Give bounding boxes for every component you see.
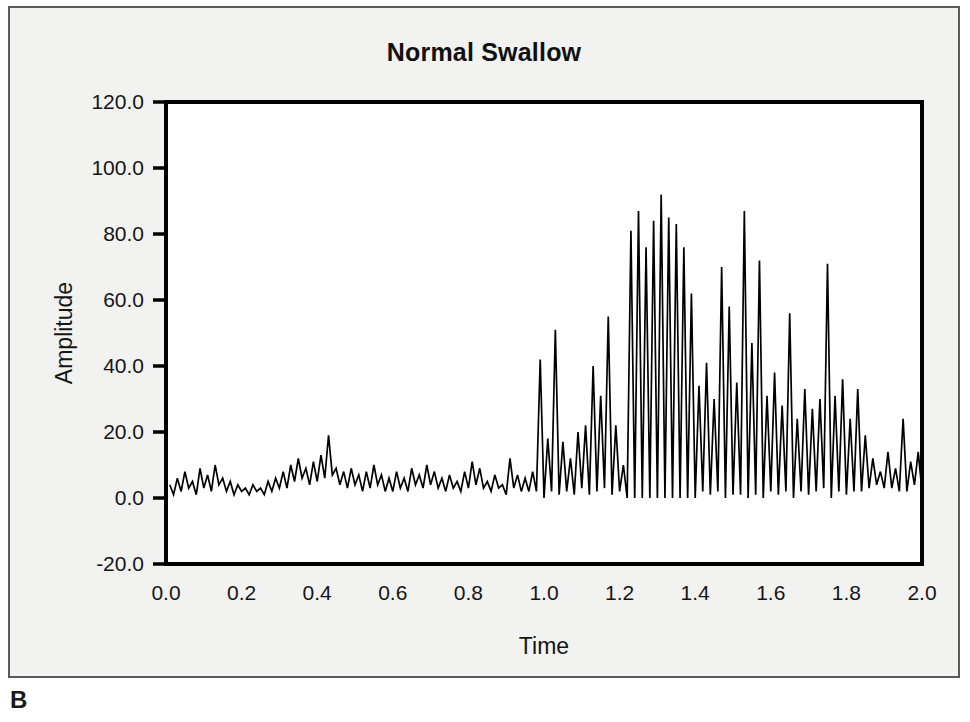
x-axis-tick-label: 0.4 xyxy=(303,581,333,604)
x-axis-tick-label: 1.6 xyxy=(756,581,785,604)
panel-letter: B xyxy=(10,686,27,714)
x-axis-tick-label: 0.6 xyxy=(378,581,407,604)
y-axis-tick-label: 80.0 xyxy=(103,222,144,245)
x-axis-ticks: 0.00.20.40.60.81.01.21.41.61.82.0 xyxy=(151,581,936,604)
y-axis-tick-label: 60.0 xyxy=(103,288,144,311)
y-axis-tick-label: 100.0 xyxy=(91,156,144,179)
x-axis-tick-label: 0.0 xyxy=(151,581,180,604)
y-axis-title: Amplitude xyxy=(51,282,77,384)
y-axis-ticks: 120.0100.080.060.040.020.00.0-20.0 xyxy=(91,90,166,575)
y-axis-tick-label: 20.0 xyxy=(103,420,144,443)
figure-panel: Normal Swallow 120.0100.080.060.040.020.… xyxy=(8,6,960,678)
x-axis-title: Time xyxy=(519,633,569,659)
y-axis-tick-label: 120.0 xyxy=(91,90,144,113)
y-axis-tick-label: -20.0 xyxy=(96,552,144,575)
x-axis-tick-label: 1.8 xyxy=(832,581,861,604)
x-axis-tick-label: 0.2 xyxy=(227,581,256,604)
chart-plot: 120.0100.080.060.040.020.00.0-20.0 0.00.… xyxy=(10,8,962,680)
x-axis-tick-label: 1.2 xyxy=(605,581,634,604)
x-axis-tick-label: 1.0 xyxy=(529,581,558,604)
x-axis-tick-label: 0.8 xyxy=(454,581,483,604)
y-axis-tick-label: 0.0 xyxy=(115,486,144,509)
x-axis-tick-label: 1.4 xyxy=(681,581,711,604)
y-axis-tick-label: 40.0 xyxy=(103,354,144,377)
x-axis-tick-label: 2.0 xyxy=(907,581,936,604)
